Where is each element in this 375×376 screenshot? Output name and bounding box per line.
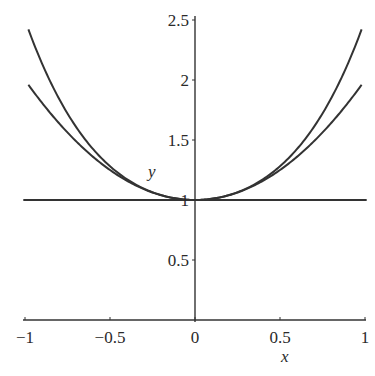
y-tick-label: 1.5 xyxy=(168,131,189,150)
y-tick-label: 1 xyxy=(181,191,190,210)
x-tick-labels: −1−0.500.51 xyxy=(16,317,369,347)
x-tick-label: 0.5 xyxy=(269,328,290,347)
x-tick-label: 0 xyxy=(191,328,200,347)
x-axis-label: x xyxy=(280,347,289,366)
chart: −1−0.500.51 0.511.522.5 x y xyxy=(0,0,375,376)
y-tick-label: 2.5 xyxy=(168,11,189,30)
y-tick-labels: 0.511.522.5 xyxy=(168,11,195,270)
y-tick-label: 2 xyxy=(181,71,190,90)
x-tick-label: −1 xyxy=(16,328,34,347)
x-tick-label: 1 xyxy=(361,328,370,347)
y-tick-label: 0.5 xyxy=(168,251,189,270)
x-tick-label: −0.5 xyxy=(95,328,126,347)
y-axis-label: y xyxy=(146,162,156,181)
